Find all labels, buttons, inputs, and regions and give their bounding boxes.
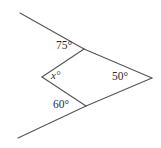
angle-label-right: 50° bbox=[112, 71, 128, 83]
angle-label-unknown-x: x° bbox=[51, 70, 60, 81]
angle-diagram-figure: 75° x° 50° 60° bbox=[0, 0, 161, 148]
bottom-ray-line bbox=[18, 106, 86, 138]
top-to-left-line bbox=[42, 49, 84, 77]
upper-ray-line bbox=[20, 13, 84, 49]
geometry-canvas bbox=[0, 0, 161, 148]
angle-label-top: 75° bbox=[56, 40, 72, 52]
angle-label-bottom: 60° bbox=[53, 99, 69, 111]
